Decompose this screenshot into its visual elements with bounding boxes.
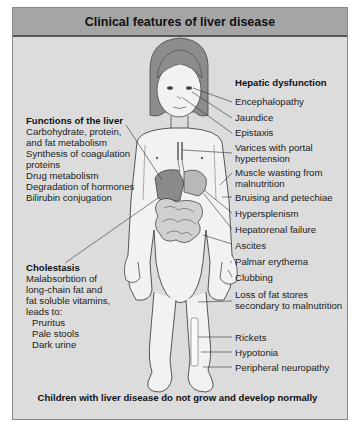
cholestasis-heading: Cholestasis — [26, 262, 80, 273]
feature-label: Hypersplenism — [235, 208, 298, 219]
feature-label: Loss of fat stores secondary to malnutri… — [235, 289, 342, 311]
left-leg-icon — [148, 292, 176, 392]
hepatic-heading: Hepatic dysfunction — [235, 77, 327, 88]
function-item: Degradation of hormones — [26, 181, 134, 192]
feature-label: Hypotonia — [235, 347, 278, 358]
feature-label: Ascites — [235, 240, 266, 251]
feature-label: Clubbing — [235, 272, 273, 283]
cholestasis-item: Pale stools — [32, 328, 79, 339]
cholestasis-text: Malabsorbtion of long-chain fat and fat … — [26, 273, 110, 317]
function-item: Carbohydrate, protein, and fat metabolis… — [26, 126, 121, 148]
feature-label: Jaundice — [235, 112, 273, 123]
cholestasis-item: Pruritus — [32, 317, 65, 328]
intestines-icon — [155, 198, 202, 242]
feature-label: Bruising and petechiae — [235, 192, 333, 203]
cholestasis-item: Dark urine — [32, 339, 76, 350]
feature-label: Hepatorenal failure — [235, 224, 316, 235]
function-item: Bilirubin conjugation — [26, 192, 112, 203]
feature-label: Muscle wasting from malnutrition — [235, 167, 322, 189]
function-item: Synthesis of coagulation proteins — [26, 148, 130, 170]
feature-label: Palmar erythema — [235, 256, 308, 267]
stomach-icon — [184, 170, 206, 196]
feature-label: Peripheral neuropathy — [235, 362, 329, 373]
footer-note: Children with liver disease do not grow … — [0, 392, 355, 403]
feature-label: Rickets — [235, 332, 266, 343]
feature-label: Encephalopathy — [235, 96, 304, 107]
bone-icon — [191, 318, 198, 366]
feature-label: Epistaxis — [235, 127, 273, 138]
feature-label: Varices with portal hypertension — [235, 142, 313, 164]
liver-icon — [155, 170, 184, 202]
function-item: Drug metabolism — [26, 170, 99, 181]
right-leg-icon — [186, 292, 213, 392]
functions-heading: Functions of the liver — [26, 115, 123, 126]
